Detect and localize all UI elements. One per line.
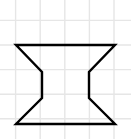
graph-paper-grid (0, 0, 131, 139)
shape-canvas (0, 0, 131, 139)
